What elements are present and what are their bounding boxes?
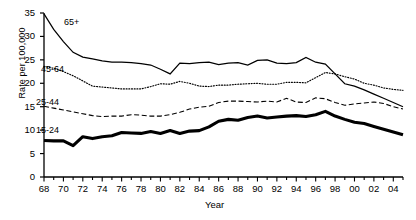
- x-tick-04: 04: [383, 183, 403, 194]
- y-tick-25: 25: [15, 54, 35, 65]
- x-tick-78: 78: [131, 183, 151, 194]
- x-axis-label: Year: [205, 199, 224, 210]
- y-tick-5: 5: [15, 148, 35, 159]
- y-tick-20: 20: [15, 77, 35, 88]
- x-tick-92: 92: [267, 183, 287, 194]
- x-tick-02: 02: [364, 183, 384, 194]
- series-line-25-44: [44, 98, 403, 117]
- x-tick-82: 82: [170, 183, 190, 194]
- x-tick-90: 90: [247, 183, 267, 194]
- x-tick-68: 68: [34, 183, 54, 194]
- x-tick-86: 86: [209, 183, 229, 194]
- x-tick-96: 96: [306, 183, 326, 194]
- suicide-rate-line-chart: Rate per 100,000 Year 05101520253035 687…: [0, 0, 416, 220]
- series-lines: [44, 14, 403, 146]
- x-tick-72: 72: [73, 183, 93, 194]
- series-label-25-44: 25-44: [36, 97, 59, 107]
- x-tick-70: 70: [53, 183, 73, 194]
- x-tick-94: 94: [286, 183, 306, 194]
- series-line-65plus: [44, 14, 403, 107]
- series-label-45-64: 45-64: [41, 64, 64, 74]
- y-tick-30: 30: [15, 30, 35, 41]
- x-tick-98: 98: [325, 183, 345, 194]
- series-label-65plus: 65+: [64, 17, 79, 27]
- series-line-45-64: [44, 66, 403, 90]
- x-tick-80: 80: [150, 183, 170, 194]
- axes: [40, 13, 403, 182]
- x-tick-74: 74: [92, 183, 112, 194]
- y-tick-35: 35: [15, 7, 35, 18]
- x-tick-88: 88: [228, 183, 248, 194]
- y-tick-0: 0: [15, 171, 35, 182]
- y-tick-15: 15: [15, 101, 35, 112]
- x-tick-76: 76: [112, 183, 132, 194]
- x-tick-84: 84: [189, 183, 209, 194]
- series-label-15-24: 15-24: [36, 125, 59, 135]
- x-tick-00: 00: [344, 183, 364, 194]
- y-tick-10: 10: [15, 124, 35, 135]
